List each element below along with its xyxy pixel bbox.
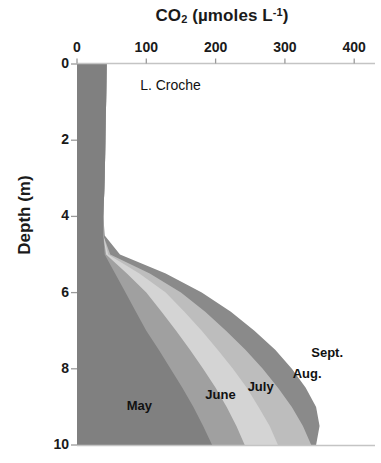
annotation-may: May: [127, 397, 152, 412]
x-axis-ticks: [77, 59, 354, 64]
y-tick-label: 10: [35, 436, 69, 452]
y-axis-ticks: [71, 64, 77, 445]
y-tick-label: 0: [35, 55, 69, 71]
annotation-aug: Aug.: [293, 365, 322, 380]
annotation-july: July: [248, 378, 274, 393]
annotation-sept: Sept.: [311, 344, 343, 359]
co2-depth-profile-figure: CO2 (µmoles L-1) Depth (m) 0100200300400…: [0, 0, 381, 463]
annotation-june: June: [205, 386, 235, 401]
x-tick-label: 300: [262, 39, 308, 55]
x-tick-label: 400: [331, 39, 377, 55]
x-tick-label: 100: [123, 39, 169, 55]
y-tick-label: 6: [35, 284, 69, 300]
area-band-layer: [77, 64, 320, 445]
y-tick-label: 8: [35, 360, 69, 376]
x-tick-label: 200: [193, 39, 239, 55]
y-tick-label: 4: [35, 207, 69, 223]
x-tick-label: 0: [54, 39, 100, 55]
y-tick-label: 2: [35, 131, 69, 147]
annotation-lcroche: L. Croche: [140, 77, 201, 93]
